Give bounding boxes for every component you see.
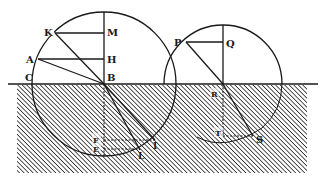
label-H: H <box>107 54 116 65</box>
label-A: A <box>25 54 34 65</box>
label-M: M <box>107 27 118 38</box>
diagram-canvas: K M A H C B F E I L P Q R T S <box>0 0 323 187</box>
label-I: I <box>153 141 157 151</box>
refraction-diagram: K M A H C B F E I L P Q R T S <box>0 0 323 187</box>
hatched-medium <box>17 85 307 173</box>
label-Q: Q <box>226 38 235 49</box>
label-T: T <box>215 128 221 138</box>
label-K: K <box>44 27 53 38</box>
ray-AB <box>38 59 104 84</box>
label-P: P <box>174 37 182 48</box>
label-S: S <box>256 134 263 145</box>
label-E: E <box>93 144 99 154</box>
ray-PR <box>186 42 223 84</box>
label-C: C <box>25 72 33 83</box>
label-R: R <box>211 89 218 99</box>
label-L: L <box>138 151 145 161</box>
label-B: B <box>107 72 115 83</box>
